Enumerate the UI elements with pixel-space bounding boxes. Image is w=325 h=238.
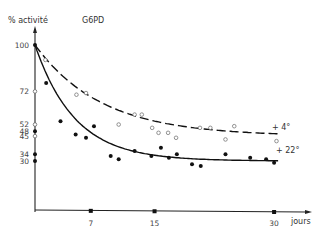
- data-point: [117, 123, 121, 127]
- x-tick-label: 7: [88, 219, 93, 228]
- data-point: [224, 138, 228, 142]
- chart-title: G6PD: [82, 16, 104, 25]
- y-tick-marker: [33, 129, 37, 133]
- data-point: [159, 146, 163, 150]
- data-point: [209, 126, 213, 130]
- data-point: [174, 136, 178, 140]
- data-point: [198, 126, 202, 130]
- y-tick-marker: [33, 90, 37, 94]
- data-point: [149, 154, 153, 158]
- axes: [33, 26, 312, 214]
- data-point: [232, 124, 236, 128]
- data-point: [84, 91, 88, 95]
- data-point: [75, 93, 79, 97]
- data-point: [117, 157, 121, 161]
- data-point: [157, 131, 161, 135]
- y-axis-label: % activité: [8, 15, 48, 25]
- y-tick-label: 45: [19, 132, 29, 141]
- data-point: [199, 164, 203, 168]
- data-point: [275, 139, 279, 143]
- x-tick-label: 30: [269, 219, 279, 228]
- data-point: [59, 119, 63, 123]
- data-point: [166, 131, 170, 135]
- data-point: [140, 113, 144, 117]
- series-label: + 22°: [276, 146, 299, 155]
- x-axis: [35, 210, 306, 212]
- data-point: [272, 161, 276, 165]
- data-point: [150, 126, 154, 130]
- fit-curves: [35, 45, 278, 161]
- data-point: [264, 157, 268, 161]
- data-point: [109, 154, 113, 158]
- data-point: [190, 162, 194, 166]
- data-point: [84, 136, 88, 140]
- data-point: [248, 156, 252, 160]
- data-points: [44, 58, 279, 168]
- x-tick-marker: [89, 209, 93, 213]
- data-point: [223, 152, 227, 156]
- y-tick-label: 100: [15, 41, 30, 50]
- data-point: [92, 124, 96, 128]
- y-tick-label: 72: [19, 87, 29, 96]
- y-tick-label: 30: [19, 157, 29, 166]
- x-axis-arrow-icon: [305, 210, 312, 214]
- x-tick-marker: [272, 210, 276, 214]
- data-point: [74, 132, 78, 136]
- data-point: [175, 152, 179, 156]
- y-tick-marker: [33, 134, 37, 138]
- y-tick-marker: [33, 159, 37, 163]
- x-tick-marker: [153, 209, 157, 213]
- y-tick-marker: [33, 123, 37, 127]
- fit-curve: [35, 45, 278, 161]
- data-point: [44, 81, 48, 85]
- data-point: [133, 149, 137, 153]
- chart: % activité G6PD jours 715301007252484534…: [0, 0, 325, 238]
- y-tick-marker: [33, 152, 37, 156]
- fit-curve: [35, 45, 278, 134]
- x-tick-label: 15: [150, 219, 160, 228]
- series-label: + 4°: [272, 123, 290, 132]
- y-axis-arrow-icon: [33, 26, 37, 33]
- data-point: [167, 156, 171, 160]
- x-axis-label: jours: [290, 217, 311, 226]
- data-point: [133, 113, 137, 117]
- data-point: [44, 58, 48, 62]
